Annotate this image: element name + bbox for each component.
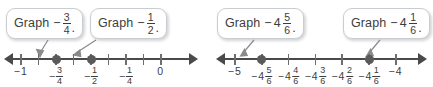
tick-label: − 4 4 6 (278, 66, 300, 86)
fraction-denominator: 6 (373, 77, 380, 87)
tick-mark (234, 54, 236, 65)
tick-mark (38, 54, 40, 65)
minus-sign: − (251, 71, 257, 82)
tick-label: − 1 4 (119, 66, 133, 86)
minus-sign: − (84, 71, 90, 82)
plotted-point (52, 55, 61, 64)
minus-sign: − (278, 71, 284, 82)
tick-label: − 3 4 (49, 66, 63, 86)
tick-label: − 1 2 (84, 66, 98, 86)
tick-mark (160, 54, 162, 65)
axis-arrow-right (418, 53, 427, 65)
number-line-axis (224, 58, 419, 60)
fraction: 3 4 (56, 66, 63, 86)
fraction-denominator: 2 (91, 77, 98, 87)
whole-number: 4 (258, 71, 264, 82)
fraction-numerator: 1 (126, 66, 133, 77)
whole-number: 4 (365, 71, 371, 82)
whole-number: 4 (285, 71, 291, 82)
axis-arrow-right (189, 53, 198, 65)
tick-label: 0 (157, 66, 164, 77)
fraction-numerator: 1 (373, 66, 380, 77)
fraction: 2 6 (346, 66, 353, 86)
tick-label: − 1 (14, 66, 28, 77)
fraction-denominator: 6 (266, 77, 273, 87)
fraction-numerator: 5 (266, 66, 273, 77)
tick-mark (125, 54, 127, 65)
tick-label: − 4 (389, 66, 403, 77)
number-line-left: − 1 − 3 4 − 1 2 − 1 4 0 (0, 0, 212, 86)
fraction: 4 6 (292, 66, 299, 86)
minus-sign: − (331, 71, 337, 82)
fraction: 1 6 (373, 66, 380, 86)
fraction-numerator: 2 (346, 66, 353, 77)
tick-mark (20, 54, 22, 65)
fraction: 1 4 (126, 66, 133, 86)
tick-mark (341, 54, 343, 65)
minus-sign: − (358, 71, 364, 82)
axis-arrow-left (216, 53, 225, 65)
whole-number: 4 (396, 66, 402, 77)
tick-mark (315, 54, 317, 65)
tick-label: − 4 2 6 (331, 66, 353, 86)
number-line-panel-left: Graph − 3 4 . Graph − 1 2 . (0, 0, 212, 86)
plotted-point (87, 55, 96, 64)
fraction-denominator: 4 (126, 77, 133, 87)
minus-sign: − (389, 66, 395, 77)
whole-number: 5 (235, 66, 241, 77)
fraction-denominator: 4 (56, 77, 63, 87)
tick-label: − 5 (228, 66, 242, 77)
fraction: 5 6 (266, 66, 273, 86)
fraction: 3 6 (319, 66, 326, 86)
minus-sign: − (14, 66, 20, 77)
fraction-numerator: 3 (56, 66, 63, 77)
fraction-numerator: 1 (91, 66, 98, 77)
plotted-point (365, 55, 374, 64)
tick-mark (143, 54, 145, 65)
tick-mark (108, 54, 110, 65)
fraction-denominator: 6 (292, 77, 299, 87)
number-line-panel-right: Graph − 4 5 6 . Graph − 4 1 6 . (214, 0, 433, 86)
fraction: 1 2 (91, 66, 98, 86)
minus-sign: − (228, 66, 234, 77)
fraction-numerator: 3 (319, 66, 326, 77)
whole-number: 1 (21, 66, 27, 77)
tick-label: − 4 1 6 (358, 66, 380, 86)
tick-label: − 4 3 6 (305, 66, 327, 86)
minus-sign: − (305, 71, 311, 82)
number-line-right: − 5 − 4 5 6 − 4 4 6 − 4 3 6 (214, 0, 433, 86)
tick-label: − 4 5 6 (251, 66, 273, 86)
tick-mark (288, 54, 290, 65)
whole-number: 4 (312, 71, 318, 82)
minus-sign: − (119, 71, 125, 82)
tick-mark (395, 54, 397, 65)
fraction-numerator: 4 (292, 66, 299, 77)
fraction-denominator: 6 (319, 77, 326, 87)
tick-mark (73, 54, 75, 65)
whole-number: 4 (339, 71, 345, 82)
minus-sign: − (49, 71, 55, 82)
plotted-point (257, 55, 266, 64)
fraction-denominator: 6 (346, 77, 353, 87)
axis-arrow-left (4, 53, 13, 65)
whole-number: 0 (157, 66, 163, 77)
